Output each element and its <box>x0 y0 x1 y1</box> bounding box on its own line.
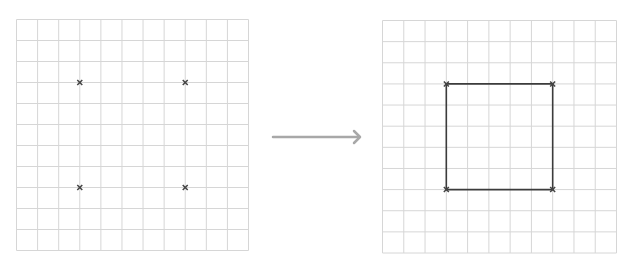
square-shape <box>446 84 552 190</box>
right-grid-panel <box>0 0 632 268</box>
square-grid <box>0 0 632 268</box>
grid-lines <box>383 21 617 254</box>
